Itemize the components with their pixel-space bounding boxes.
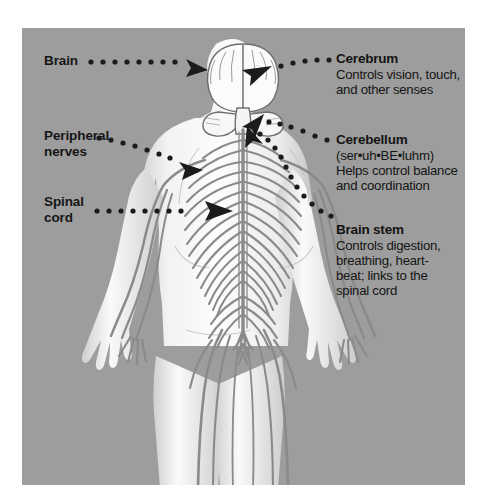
nervous-system-figure: Brain Peripheral nerves Spinal cord Cere… [0, 0, 488, 504]
callout-brain-stem: Brain stem Controls digestion, breathing… [336, 222, 468, 298]
callout-cerebrum-line1: Controls vision, touch, [336, 67, 468, 82]
label-peripheral-nerves: Peripheral nerves [44, 128, 109, 159]
label-brain: Brain [44, 53, 78, 69]
callout-cerebellum: Cerebellum (ser•uh•BE•luhm) Helps contro… [336, 132, 468, 193]
label-peripheral-nerves-line2: nerves [44, 144, 109, 160]
callout-cerebellum-line3: and coordination [336, 178, 468, 193]
callout-cerebrum: Cerebrum Controls vision, touch, and oth… [336, 51, 468, 97]
callout-cerebrum-line2: and other senses [336, 82, 468, 97]
leader-brain [88, 59, 208, 77]
callout-brain-stem-line1: Controls digestion, [336, 238, 468, 253]
body-group [82, 39, 375, 494]
label-spinal-cord-line2: cord [44, 210, 84, 226]
callout-brain-stem-line3: beat; links to the [336, 268, 468, 283]
label-spinal-cord-line1: Spinal [44, 194, 84, 210]
callout-cerebellum-line2: Helps control balance [336, 163, 468, 178]
callout-brain-stem-line4: spinal cord [336, 283, 468, 298]
label-peripheral-nerves-line1: Peripheral [44, 128, 109, 144]
callout-cerebellum-heading: Cerebellum [336, 132, 468, 148]
callout-cerebellum-pronunciation: (ser•uh•BE•luhm) [336, 148, 468, 163]
callout-brain-stem-heading: Brain stem [336, 222, 468, 238]
label-spinal-cord: Spinal cord [44, 194, 84, 225]
callout-brain-stem-line2: breathing, heart- [336, 253, 468, 268]
callout-cerebrum-heading: Cerebrum [336, 51, 468, 67]
